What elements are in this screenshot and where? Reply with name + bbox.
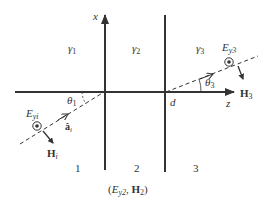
h-transmitted-label: H3 xyxy=(240,87,253,101)
gamma1-label: γ1 xyxy=(68,42,76,56)
gamma3-label: γ3 xyxy=(196,42,204,56)
region-2-label: 2 xyxy=(134,162,140,174)
z-axis-label: z xyxy=(225,97,231,109)
diagram-canvas: x z d γ1 γ2 γ3 θ1 θ3 Eyi âi Hi Ey3 H3 1 … xyxy=(0,0,265,206)
x-axis-label: x xyxy=(92,10,98,22)
theta3-arc xyxy=(199,79,201,92)
d-label: d xyxy=(170,96,176,108)
region-3-label: 3 xyxy=(193,162,199,174)
h-incident-arrow-icon xyxy=(43,131,53,143)
e-field-transmitted-out-of-page-icon xyxy=(225,58,233,66)
theta1-arc xyxy=(82,92,86,104)
incident-direction-arrow-icon xyxy=(58,114,68,120)
medium2-fields-label: (Ey2, H2) xyxy=(108,183,148,197)
theta1-label: θ1 xyxy=(67,94,76,108)
gamma2-label: γ2 xyxy=(132,42,140,56)
e-incident-label: Eyi xyxy=(25,107,39,121)
e-transmitted-label: Ey3 xyxy=(221,41,236,55)
h-transmitted-arrow-icon xyxy=(238,66,243,79)
unit-vector-label: âi xyxy=(65,121,72,134)
theta3-label: θ3 xyxy=(205,76,214,90)
region-1-label: 1 xyxy=(75,162,81,174)
h-incident-label: Hi xyxy=(47,147,58,161)
e-field-out-of-page-icon xyxy=(33,122,41,130)
